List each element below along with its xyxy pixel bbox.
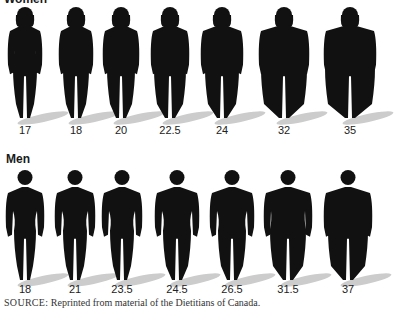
source-note: SOURCE: Reprinted from material of the D…: [4, 297, 260, 308]
women-bmi-label: 35: [344, 124, 356, 136]
men-silhouette-bmi-37: [318, 168, 378, 282]
source-text: Reprinted from material of the Dietitian…: [48, 297, 260, 308]
men-silhouette-bmi-31.5: [258, 168, 318, 282]
women-bmi-label: 32: [278, 124, 290, 136]
women-silhouette-bmi-22.5: [140, 5, 200, 120]
women-silhouette-bmi-24: [192, 5, 252, 120]
men-silhouette-bmi-24.5: [147, 168, 207, 282]
men-title: Men: [6, 152, 30, 166]
women-bmi-label: 17: [19, 124, 31, 136]
men-bmi-label: 26.5: [221, 283, 242, 295]
men-bmi-label: 31.5: [277, 283, 298, 295]
men-bmi-label: 23.5: [111, 283, 132, 295]
men-silhouette-bmi-23.5: [92, 168, 152, 282]
women-bmi-label: 18: [70, 124, 82, 136]
women-silhouette-bmi-32: [254, 5, 314, 120]
men-bmi-label: 37: [342, 283, 354, 295]
men-bmi-label: 18: [19, 283, 31, 295]
women-bmi-label: 24: [216, 124, 228, 136]
women-bmi-label: 20: [115, 124, 127, 136]
source-prefix: SOURCE:: [4, 297, 48, 308]
men-bmi-label: 21: [69, 283, 81, 295]
women-silhouette-bmi-35: [320, 5, 380, 120]
women-bmi-label: 22.5: [159, 124, 180, 136]
men-silhouette-bmi-26.5: [202, 168, 262, 282]
men-bmi-label: 24.5: [166, 283, 187, 295]
